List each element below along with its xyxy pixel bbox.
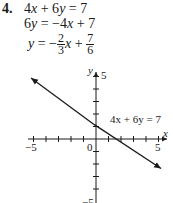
line-4x-6y-7-upper [31, 78, 94, 124]
y-tick-label-neg5: −5 [82, 196, 94, 203]
line-4x-6y-7-lower [94, 124, 161, 168]
coordinate-graph [0, 0, 173, 203]
origin-label: 0 [87, 141, 93, 153]
x-axis-label: x [163, 127, 168, 139]
x-tick-label-neg5: −5 [25, 141, 37, 153]
y-axis-label: y [88, 64, 93, 76]
line-equation-label: 4x + 6y = 7 [110, 113, 161, 125]
x-tick-label-5: 5 [155, 141, 161, 153]
y-tick-label-5: 5 [101, 69, 107, 81]
